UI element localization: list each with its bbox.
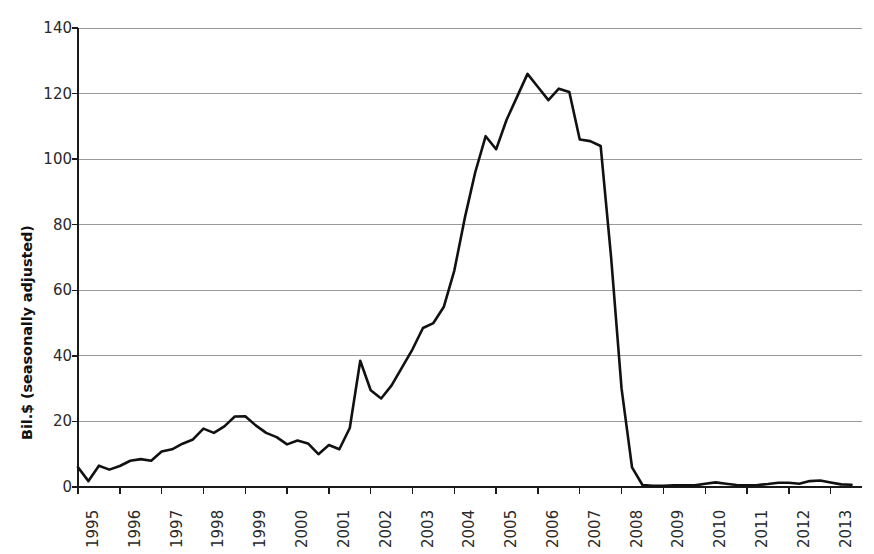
chart-container: Bil.$ (seasonally adjusted) 140120100806… xyxy=(0,0,874,554)
data-line xyxy=(78,74,852,486)
tick-marks xyxy=(72,28,831,494)
data-series xyxy=(78,74,852,486)
plot-area xyxy=(0,0,874,554)
gridlines xyxy=(78,28,862,421)
axis-lines xyxy=(78,28,862,487)
